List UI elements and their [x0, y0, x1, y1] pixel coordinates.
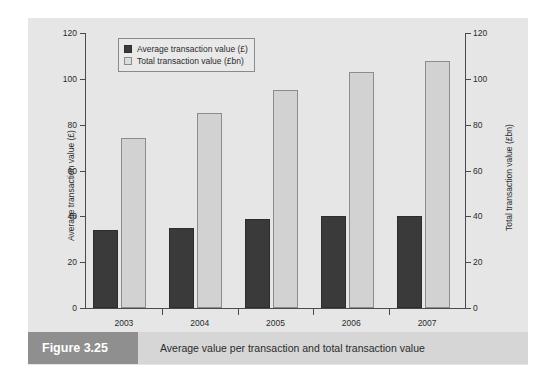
- y-tick-label-right-40: 40: [473, 212, 482, 221]
- y-tick-label-right-80: 80: [473, 121, 482, 130]
- y-tick-mark-left-120: [80, 33, 85, 34]
- figure-caption-bar: Figure 3.25 Average value per transactio…: [28, 332, 528, 364]
- legend-item-total: Total transaction value (£bn): [124, 55, 248, 67]
- y-tick-mark-left-100: [80, 79, 85, 80]
- bars-layer: [86, 33, 465, 308]
- legend-swatch-average-icon: [124, 45, 132, 53]
- y-tick-label-right-120: 120: [473, 29, 487, 38]
- y-tick-label-left-80: 80: [56, 121, 77, 130]
- y-tick-label-right-60: 60: [473, 167, 482, 176]
- y-tick-label-left-100: 100: [56, 75, 77, 84]
- y-tick-label-right-100: 100: [473, 75, 487, 84]
- x-axis-separator-tick-1: [238, 309, 239, 315]
- x-axis-label-2003: 2003: [86, 318, 162, 328]
- y-tick-mark-right-60: [466, 171, 471, 172]
- legend-label-total: Total transaction value (£bn): [137, 56, 244, 67]
- x-axis-separator-tick-0: [162, 309, 163, 315]
- x-axis-separator-tick-2: [313, 309, 314, 315]
- y-tick-mark-right-80: [466, 125, 471, 126]
- y-tick-mark-left-20: [80, 262, 85, 263]
- bar-average-2007: [397, 216, 422, 308]
- chart-legend: Average transaction value (£) Total tran…: [118, 38, 255, 72]
- x-axis-label-2005: 2005: [238, 318, 314, 328]
- y-tick-mark-right-0: [466, 308, 471, 309]
- bar-total-2006: [349, 72, 374, 308]
- x-axis-label-2004: 2004: [162, 318, 238, 328]
- legend-label-average: Average transaction value (£): [137, 44, 248, 55]
- y-tick-mark-left-80: [80, 125, 85, 126]
- y-tick-label-left-20: 20: [56, 258, 77, 267]
- y-tick-mark-right-20: [466, 262, 471, 263]
- x-axis-baseline: [85, 308, 466, 309]
- bar-average-2004: [169, 228, 194, 308]
- plot-area: 002020404060608080100100120120 Average t…: [56, 26, 498, 334]
- y-tick-mark-right-120: [466, 33, 471, 34]
- y-tick-mark-right-100: [466, 79, 471, 80]
- bar-total-2004: [197, 113, 222, 308]
- x-axis-label-2006: 2006: [313, 318, 389, 328]
- x-axis-label-2007: 2007: [389, 318, 465, 328]
- y-tick-mark-left-60: [80, 171, 85, 172]
- legend-item-average: Average transaction value (£): [124, 43, 248, 55]
- legend-swatch-total-icon: [124, 57, 132, 65]
- y-tick-label-right-20: 20: [473, 258, 482, 267]
- y-tick-mark-left-0: [80, 308, 85, 309]
- y-tick-label-left-120: 120: [56, 29, 77, 38]
- y-tick-label-right-0: 0: [473, 304, 478, 313]
- x-axis-separator-tick-3: [389, 309, 390, 315]
- figure-root: 002020404060608080100100120120 Average t…: [0, 0, 549, 384]
- bar-total-2003: [121, 138, 146, 308]
- bar-total-2007: [425, 61, 450, 309]
- right-axis-title: Total transaction value (£bn): [504, 124, 514, 231]
- figure-number-tag: Figure 3.25: [28, 332, 138, 364]
- left-axis-title: Average transaction value (£): [66, 130, 76, 241]
- bar-average-2006: [321, 216, 346, 308]
- y-tick-mark-left-40: [80, 216, 85, 217]
- y-tick-mark-right-40: [466, 216, 471, 217]
- bar-average-2005: [245, 219, 270, 308]
- bar-average-2003: [93, 230, 118, 308]
- y-tick-label-left-0: 0: [56, 304, 77, 313]
- figure-caption-text: Average value per transaction and total …: [138, 332, 528, 364]
- bar-total-2005: [273, 90, 298, 308]
- chart-panel: 002020404060608080100100120120 Average t…: [28, 18, 528, 365]
